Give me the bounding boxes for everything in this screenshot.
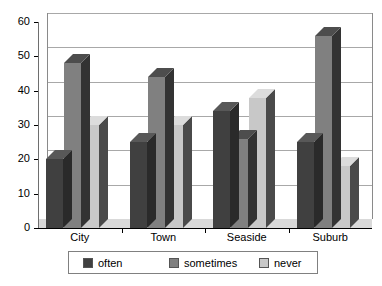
legend-label: never: [274, 257, 302, 269]
plot-area: 0102030405060CityTownSeasideSuburb: [0, 0, 382, 286]
bar-side: [81, 54, 90, 228]
bar-side: [230, 102, 239, 228]
bar-face: [130, 142, 147, 228]
axis-front-vert: [38, 22, 39, 228]
y-axis-label-50: 50: [8, 50, 30, 61]
bar-side: [63, 150, 72, 228]
axis-right-vert: [372, 13, 373, 219]
bar-side: [183, 116, 192, 228]
bar-side: [350, 157, 359, 228]
y-tick-20: [34, 159, 38, 160]
bar-suburb-often: [297, 142, 314, 228]
y-tick-50: [34, 56, 38, 57]
legend-label: sometimes: [184, 257, 237, 269]
legend-item-never[interactable]: never: [259, 257, 302, 269]
y-axis-label-20: 20: [8, 153, 30, 164]
y-axis-label-60: 60: [8, 16, 30, 27]
y-tick-30: [34, 125, 38, 126]
bar-side: [248, 130, 257, 228]
legend-item-often[interactable]: often: [83, 257, 122, 269]
bar-town-often: [130, 142, 147, 228]
legend-item-sometimes[interactable]: sometimes: [169, 257, 237, 269]
y-axis-label-40: 40: [8, 85, 30, 96]
legend-label: often: [98, 257, 122, 269]
x-axis-label-suburb: Suburb: [289, 232, 373, 243]
bar-side: [165, 68, 174, 228]
y-tick-0: [34, 228, 38, 229]
y-tick-60: [34, 22, 38, 23]
legend-swatch-never: [259, 258, 269, 268]
x-axis-label-seaside: Seaside: [205, 232, 289, 243]
bar-face: [46, 159, 63, 228]
x-axis-label-city: City: [38, 232, 122, 243]
y-tick-40: [34, 91, 38, 92]
bar-face: [213, 111, 230, 228]
x-axis-label-town: Town: [122, 232, 206, 243]
bar-side: [332, 27, 341, 228]
bar-city-often: [46, 159, 63, 228]
legend-swatch-often: [83, 258, 93, 268]
gridline-60: [47, 13, 372, 14]
bar-side: [99, 116, 108, 228]
y-axis-label-10: 10: [8, 188, 30, 199]
bar-face: [297, 142, 314, 228]
y-tick-10: [34, 194, 38, 195]
y-axis-label-0: 0: [8, 222, 30, 233]
bar-side: [147, 133, 156, 228]
legend-swatch-sometimes: [169, 258, 179, 268]
y-axis-label-30: 30: [8, 119, 30, 130]
bar-side: [314, 133, 323, 228]
chart-legend: oftensometimesnever: [68, 251, 318, 274]
bar-seaside-often: [213, 111, 230, 228]
bar-chart: 0102030405060CityTownSeasideSuburb often…: [0, 0, 382, 286]
bar-side: [266, 89, 275, 228]
